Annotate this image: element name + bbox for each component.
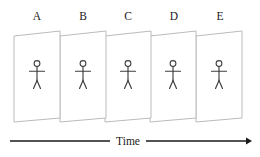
figure-head-e: [216, 61, 222, 67]
frame-label-group: A B C D E: [33, 10, 224, 22]
arrow-right-icon: [246, 137, 252, 144]
frame-panel-c: [105, 31, 151, 122]
frame-panel-d: [150, 31, 196, 122]
figure-head-b: [80, 61, 86, 67]
figure-head-d: [170, 61, 176, 67]
time-sequence-diagram: A B C D E Time: [0, 0, 260, 157]
time-axis-label: Time: [116, 135, 140, 147]
frame-panel-b: [60, 31, 106, 122]
frame-label-e: E: [216, 10, 223, 22]
frame-label-b: B: [79, 10, 87, 22]
frame-label-a: A: [33, 10, 42, 22]
figure-head-c: [125, 61, 131, 67]
frame-label-c: C: [124, 10, 132, 22]
figure-head-a: [34, 61, 40, 67]
diagram-canvas: A B C D E Time: [0, 0, 260, 157]
frame-label-d: D: [170, 10, 178, 22]
frame-panel-group: [14, 31, 242, 122]
frame-panel-a: [14, 31, 60, 122]
time-axis: Time: [10, 135, 252, 147]
frame-panel-e: [196, 31, 242, 122]
